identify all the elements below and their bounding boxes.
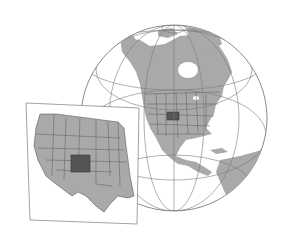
locator-map [0,0,281,233]
globe-colorado-highlight [167,112,179,120]
inset-map [26,103,139,224]
inset-colorado-highlight [71,155,90,172]
